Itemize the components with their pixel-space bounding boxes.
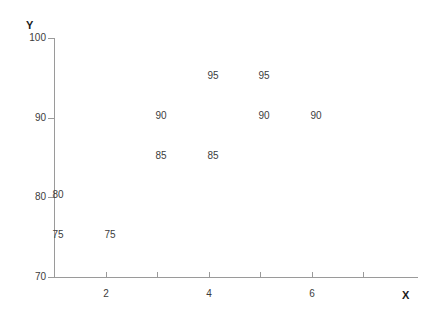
x-tick-label-wrap: 2 [94, 288, 118, 300]
scatter-plot: Y X 708090100 246 75807590859585959090 [0, 0, 433, 314]
x-tick-mark [157, 272, 158, 278]
data-point-label: 85 [202, 150, 224, 161]
x-tick-mark [106, 272, 107, 278]
data-point-label: 90 [305, 110, 327, 121]
y-tick-label: 100 [18, 32, 46, 43]
y-tick-label-wrap: 100 [14, 32, 46, 43]
x-tick-label-wrap: 6 [300, 288, 324, 300]
x-tick-label: 4 [197, 288, 221, 300]
data-point-label: 95 [253, 70, 275, 81]
y-tick-mark [48, 118, 55, 119]
data-point-label: 90 [253, 110, 275, 121]
x-tick-mark [363, 272, 364, 278]
x-tick-mark [54, 272, 55, 278]
x-tick-mark [312, 272, 313, 278]
x-tick-mark [209, 272, 210, 278]
y-tick-mark [48, 38, 55, 39]
x-axis-title: X [402, 289, 409, 301]
data-point-label: 95 [202, 70, 224, 81]
y-tick-label: 90 [18, 112, 46, 123]
data-point-label: 80 [47, 189, 69, 200]
y-tick-label-wrap: 80 [14, 191, 46, 202]
x-tick-label: 2 [94, 288, 118, 300]
y-axis-line [54, 38, 55, 277]
data-point-label: 75 [47, 229, 69, 240]
x-tick-label-wrap: 4 [197, 288, 221, 300]
x-tick-label: 6 [300, 288, 324, 300]
y-axis-title: Y [26, 19, 33, 31]
x-tick-mark [260, 272, 261, 278]
y-tick-label: 70 [18, 271, 46, 282]
y-tick-label-wrap: 90 [14, 112, 46, 123]
y-tick-label: 80 [18, 191, 46, 202]
y-tick-label-wrap: 70 [14, 271, 46, 282]
data-point-label: 85 [150, 150, 172, 161]
data-point-label: 75 [99, 229, 121, 240]
data-point-label: 90 [150, 110, 172, 121]
